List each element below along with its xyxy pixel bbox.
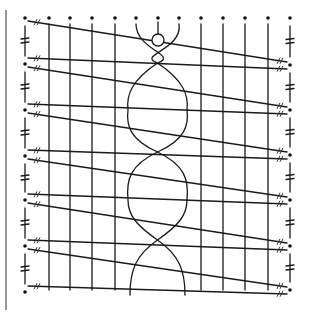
pricking-drawing <box>0 0 313 312</box>
lace-diagram: bobbin-lace-pricking <box>0 0 313 312</box>
diagonal-threads <box>28 19 287 297</box>
start-circle-icon <box>152 34 164 46</box>
